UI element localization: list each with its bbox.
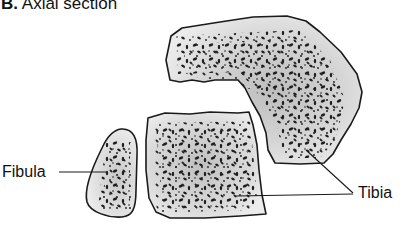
fibula-label: Fibula: [2, 163, 46, 181]
axial-section-diagram: [0, 0, 405, 230]
fibula-cross-section: [86, 129, 137, 217]
tibia-label: Tibia: [358, 184, 392, 202]
tibia-lower-fragment: [146, 112, 266, 218]
